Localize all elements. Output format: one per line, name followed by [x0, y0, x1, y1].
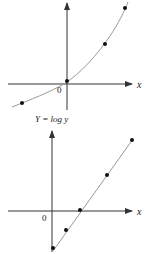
top-exponential-curve	[12, 2, 128, 107]
data-point	[103, 42, 107, 46]
data-point	[123, 6, 127, 10]
bottom-y-axis-label: Y = log y	[35, 114, 68, 124]
data-point	[78, 208, 82, 212]
top-x-axis-label: x	[136, 79, 142, 90]
data-point	[64, 228, 68, 232]
bottom-linear-fit	[53, 139, 133, 251]
data-point	[105, 173, 109, 177]
data-point	[51, 246, 55, 250]
data-point	[130, 138, 134, 142]
bottom-x-axis-label: x	[136, 206, 142, 217]
figure: x 0 Y = log y x 0	[0, 0, 153, 254]
top-data-points	[20, 6, 127, 105]
top-chart: x 0	[8, 2, 142, 110]
data-point	[65, 79, 69, 83]
data-point	[20, 101, 24, 105]
bottom-origin-label: 0	[42, 213, 47, 223]
bottom-chart: Y = log y x 0	[8, 114, 142, 252]
top-origin-label: 0	[57, 85, 62, 95]
